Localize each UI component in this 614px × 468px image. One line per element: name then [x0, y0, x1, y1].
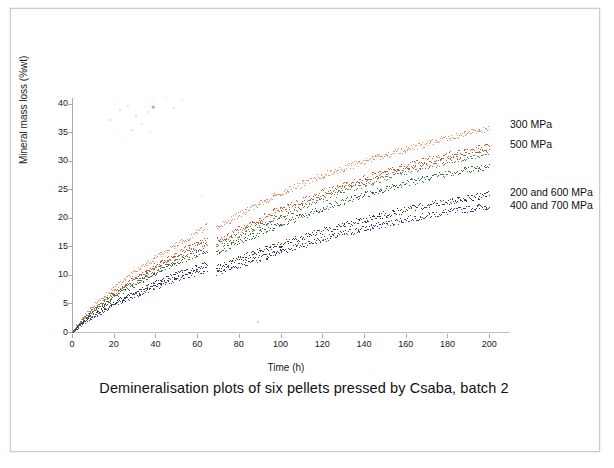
series-2 [72, 144, 490, 333]
series-annotation-labels: 300 MPa500 MPa200 and 600 MPa400 and 700… [510, 86, 614, 346]
figure-container: Mineral mass loss (%wt) 0510152025303540… [10, 8, 598, 450]
series-label-1: 300 MPa [510, 119, 552, 130]
chart-plot-region: Mineral mass loss (%wt) 0510152025303540… [62, 86, 510, 346]
series-4 [72, 164, 490, 333]
series-scatter-svg [62, 86, 510, 346]
screenshot-page: Mineral mass loss (%wt) 0510152025303540… [0, 0, 614, 468]
x-axis-title: Time (h) [62, 362, 510, 373]
series-label-2: 500 MPa [510, 139, 552, 150]
figure-caption: Demineralisation plots of six pellets pr… [10, 380, 598, 396]
series-1 [72, 126, 490, 333]
data-plot-area [62, 86, 510, 346]
series-6 [72, 204, 490, 333]
y-axis-title: Mineral mass loss (%wt) [18, 56, 29, 164]
series-label-4: 400 and 700 MPa [510, 200, 593, 211]
series-5 [72, 191, 490, 333]
series-label-3: 200 and 600 MPa [510, 187, 593, 198]
